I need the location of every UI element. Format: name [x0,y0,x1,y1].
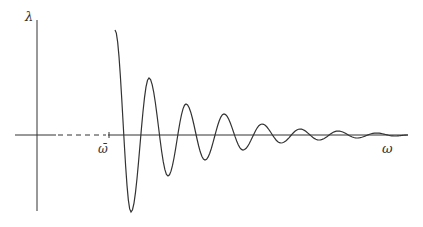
threshold-label: ω̄ [98,143,108,155]
y-axis-label: λ [25,10,33,23]
damped-oscillation-curve [115,30,408,212]
diagram-canvas [0,0,423,227]
x-axis-label: ω [382,142,393,155]
